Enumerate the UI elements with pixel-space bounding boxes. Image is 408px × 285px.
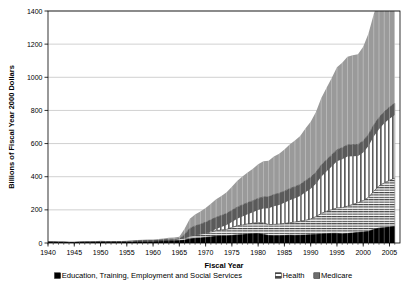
y-tick-label: 600 — [31, 140, 43, 147]
y-axis-title: Billions of Fiscal Year 2000 Dollars — [7, 65, 16, 189]
y-tick-label: 200 — [31, 206, 43, 213]
x-tick-label: 2005 — [382, 249, 398, 256]
legend-label: Medicare — [321, 271, 352, 280]
x-tick-label: 1975 — [224, 249, 240, 256]
legend-marker-solid-black — [55, 273, 61, 279]
legend-marker-solid-gray — [314, 273, 320, 279]
x-tick-label: 1970 — [198, 249, 214, 256]
x-tick-label: 1960 — [145, 249, 161, 256]
stacked-area-chart-figure: 0200400600800100012001400 19401945195019… — [0, 0, 408, 285]
y-tick-label: 400 — [31, 173, 43, 180]
legend-label: Education, Training, Employment and Soci… — [62, 271, 242, 280]
x-tick-label: 1995 — [329, 249, 345, 256]
x-tick-label: 1940 — [40, 249, 56, 256]
x-tick-label: 1955 — [119, 249, 135, 256]
y-tick-label: 1400 — [27, 8, 43, 15]
x-tick-label: 1965 — [172, 249, 188, 256]
x-tick-label: 1980 — [250, 249, 266, 256]
y-tick-label: 1000 — [27, 74, 43, 81]
x-tick-label: 1985 — [277, 249, 293, 256]
legend-entry-0[interactable]: Education, Training, Employment and Soci… — [55, 271, 243, 280]
legend-marker-horizontal-stripes — [275, 273, 281, 279]
y-tick-label: 1200 — [27, 41, 43, 48]
chart-canvas: 0200400600800100012001400 19401945195019… — [0, 0, 408, 285]
x-tick-label: 1990 — [303, 249, 319, 256]
y-tick-label: 0 — [39, 240, 43, 247]
x-tick-label: 1945 — [66, 249, 82, 256]
x-tick-label: 2000 — [355, 249, 371, 256]
y-tick-label: 800 — [31, 107, 43, 114]
legend-label: Health — [283, 271, 305, 280]
x-tick-label: 1950 — [93, 249, 109, 256]
x-axis-title: Fiscal Year — [204, 261, 243, 270]
